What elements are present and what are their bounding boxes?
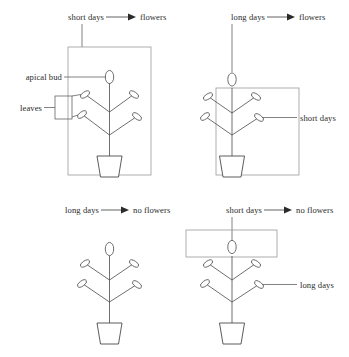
apical-bud-label: apical bud [26,73,62,82]
treatment-label-bottom-left: long days [65,206,99,215]
leaf [250,92,262,102]
leaf [128,259,140,269]
pot [97,323,122,344]
branch-lower-right [110,117,137,135]
plant-bottom-right [199,240,265,344]
photoperiodism-diagram: short days flowers apical bud leaves lon… [0,0,349,357]
leaf [79,259,91,269]
apical-bud [228,240,236,253]
leaf [202,92,214,102]
leaves-bracket [55,96,72,119]
branch-lower-right [110,285,137,302]
branch-upper-left [86,264,110,280]
branch-upper-left [209,264,232,280]
branch-upper-left [209,97,232,113]
panel-top-left-graphics [44,14,151,177]
leaf [199,278,211,288]
leaves-label: leaves [20,104,42,113]
panel-bottom-right-graphics [186,207,297,344]
branch-upper-right [232,264,255,280]
result-label-bottom-left: no flowers [133,206,170,215]
branch-upper-right [110,264,134,280]
treatment-label-top-right: long days [231,13,265,22]
pot [220,323,245,344]
side-label-top-right: short days [300,114,336,123]
treatment-arrow-bottom-right [264,207,292,214]
leaf [250,259,262,269]
branch-upper-right [110,95,134,112]
branch-lower-right [232,285,258,302]
treatment-arrow-top-right [267,14,295,21]
leaf [76,109,88,119]
treatment-label-bottom-right: short days [226,206,262,215]
leaf [131,111,143,121]
branch-upper-left [86,95,110,112]
branch-lower-left [206,117,232,135]
leader-leaf-upper [72,95,81,97]
branch-lower-left [206,284,232,302]
branch-lower-right [232,118,258,135]
treatment-label-top-left: short days [68,13,104,22]
panel-top-right-graphics [199,14,299,177]
branch-lower-left [83,115,110,135]
leaf [202,259,214,269]
apical-bud [105,70,113,83]
side-label-bottom-right: long days [300,281,334,290]
treatment-arrow-bottom-left [101,207,129,214]
result-label-top-left: flowers [140,13,166,22]
leaf [199,111,211,121]
figure-canvas [0,0,349,357]
panel-bottom-left-graphics [76,207,143,344]
leaf [131,279,143,289]
leaf [128,90,140,100]
apical-bud [228,73,236,86]
branch-upper-right [232,97,255,113]
result-label-bottom-right: no flowers [296,206,333,215]
apical-bud [105,242,113,255]
result-label-top-right: flowers [299,13,325,22]
treatment-arrow-top-left [106,14,136,21]
branch-lower-left [83,284,110,302]
plant-bottom-left [76,242,143,344]
plant-top-left [76,70,143,177]
pot [220,156,245,177]
pot [97,156,122,177]
leaf [76,278,88,288]
plant-top-right [199,73,265,177]
